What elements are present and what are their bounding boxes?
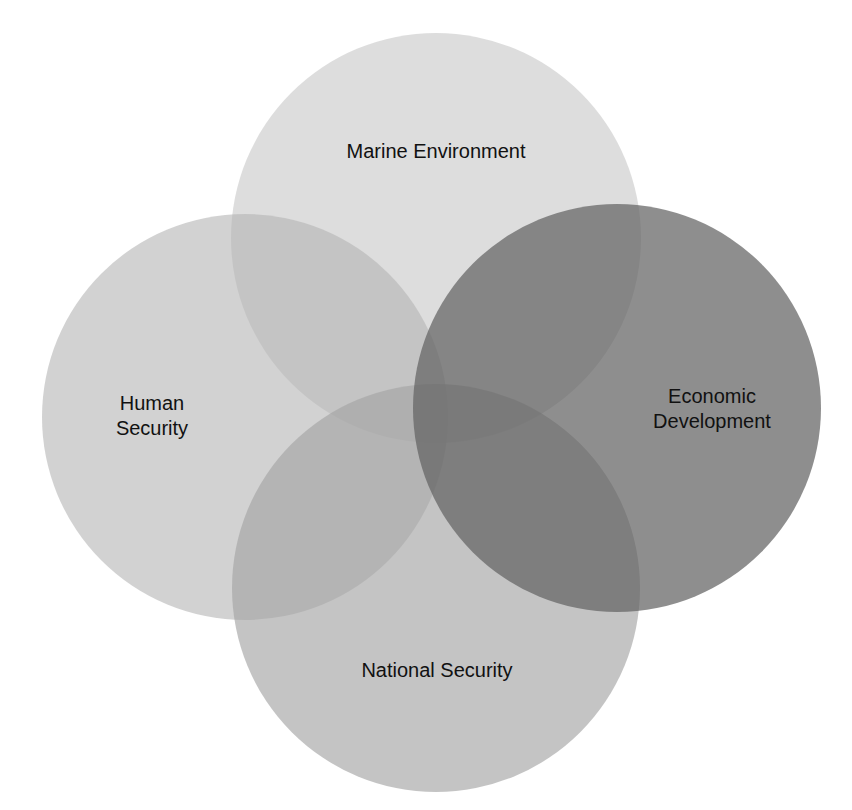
label-human-security-line2: Security	[116, 417, 188, 439]
label-national-security: National Security	[361, 659, 512, 681]
label-human-security-line1: Human	[120, 392, 184, 414]
venn-diagram: Marine Environment Human Security Econom…	[0, 0, 852, 810]
label-economic-development-line1: Economic	[668, 385, 756, 407]
circle-economic-development	[413, 204, 821, 612]
label-economic-development-line2: Development	[653, 410, 771, 432]
label-marine-environment: Marine Environment	[347, 140, 526, 162]
